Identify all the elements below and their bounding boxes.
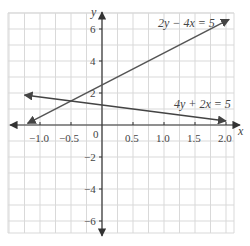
x-tick-label: 1.5 [187, 132, 201, 144]
x-tick-label: 2.0 [218, 132, 232, 144]
y-tick-label: −2 [84, 151, 96, 163]
x-tick-label: 1.0 [156, 132, 170, 144]
origin-label: 0 [93, 128, 99, 140]
chart: y x 0 −1.0 −0.5 0.5 1.0 1.5 2.0 6 4 2 −2… [0, 0, 250, 246]
y-tick-label: −6 [84, 215, 96, 227]
y-tick-label: −4 [84, 183, 96, 195]
y-tick-label: 4 [90, 55, 96, 67]
x-tick-label: −0.5 [59, 132, 79, 144]
y-tick-label: 2 [90, 87, 96, 99]
x-tick-label: 0.5 [125, 132, 139, 144]
grid [8, 13, 234, 233]
equation-label-1: 2y − 4x = 5 [158, 16, 215, 30]
y-axis-label: y [90, 5, 97, 19]
equation-label-2: 4y + 2x = 5 [174, 97, 231, 111]
y-tick-label: 6 [90, 23, 96, 35]
x-tick-label: −1.0 [29, 132, 49, 144]
x-axis-label: x [237, 124, 244, 138]
